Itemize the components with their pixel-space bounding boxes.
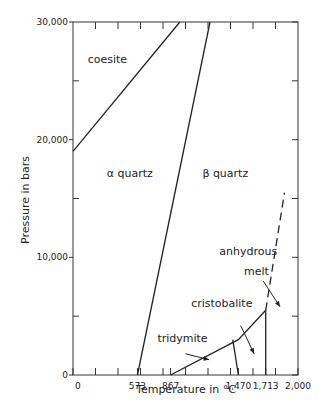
y-tick-label: 20,000 — [37, 135, 69, 145]
region-label: α quartz — [107, 167, 153, 180]
region-label: cristobalite — [191, 297, 253, 310]
x-tick-label: 0 — [75, 381, 81, 391]
x-tick-label: 1,713 — [253, 381, 279, 391]
phase-diagram: 05738671,4701,7132,000010,00020,00030,00… — [0, 0, 325, 416]
region-label: tridymite — [157, 332, 207, 345]
y-tick-label: 30,000 — [37, 17, 69, 27]
region-label: anhydrous — [219, 245, 277, 258]
phase-boundary-line — [73, 22, 180, 151]
region-label: β quartz — [202, 167, 248, 180]
region-label: coesite — [88, 53, 128, 66]
y-tick-label: 10,000 — [37, 252, 69, 262]
x-axis-label: Temperature in °C — [135, 383, 236, 396]
x-tick-label: 2,000 — [285, 381, 311, 391]
y-axis-label: Pressure in bars — [19, 156, 32, 244]
region-label: melt — [244, 265, 270, 278]
arrow-head — [275, 301, 280, 307]
phase-boundary-line — [233, 340, 239, 375]
phase-boundary-line — [137, 22, 210, 375]
y-tick-label: 0 — [62, 370, 68, 380]
plot-frame — [73, 22, 298, 375]
